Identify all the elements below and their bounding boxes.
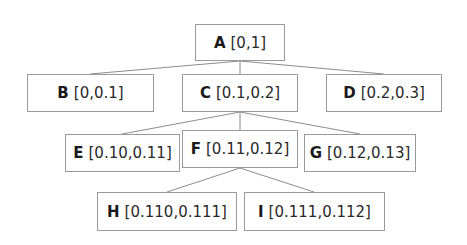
node-g: G [0.12,0.13] [304,134,416,172]
edge-f-i [240,168,314,192]
node-a: A [0,1] [195,24,285,61]
node-range: [0.110,0.111] [125,203,227,221]
node-range: [0.11,0.12] [206,140,289,158]
node-key: C [200,84,211,102]
node-range: [0.111,0.112] [269,203,371,221]
node-key: G [310,144,322,162]
node-key: B [57,84,68,102]
node-f: F [0.11,0.12] [182,130,298,168]
node-range: [0.1,0.2] [216,84,280,102]
node-key: E [73,144,83,162]
node-range: [0.10,0.11] [88,144,171,162]
node-i: I [0.111,0.112] [244,192,385,231]
node-h: H [0.110,0.111] [97,192,237,231]
interval-tree-diagram: A [0,1] B [0,0.1] C [0.1,0.2] D [0.2,0.3… [0,0,467,245]
node-b: B [0,0.1] [27,74,154,112]
node-key: D [343,84,355,102]
edge-a-d [240,61,384,74]
node-range: [0,0.1] [74,84,124,102]
node-key: H [107,203,120,221]
node-key: F [191,140,201,158]
edge-a-b [90,61,240,74]
node-range: [0.2,0.3] [361,84,425,102]
node-key: I [258,203,264,221]
node-key: A [214,34,226,52]
node-d: D [0.2,0.3] [326,74,442,112]
node-range: [0,1] [231,34,267,52]
node-range: [0.12,0.13] [327,144,410,162]
node-e: E [0.10,0.11] [65,134,180,172]
node-c: C [0.1,0.2] [182,74,298,112]
